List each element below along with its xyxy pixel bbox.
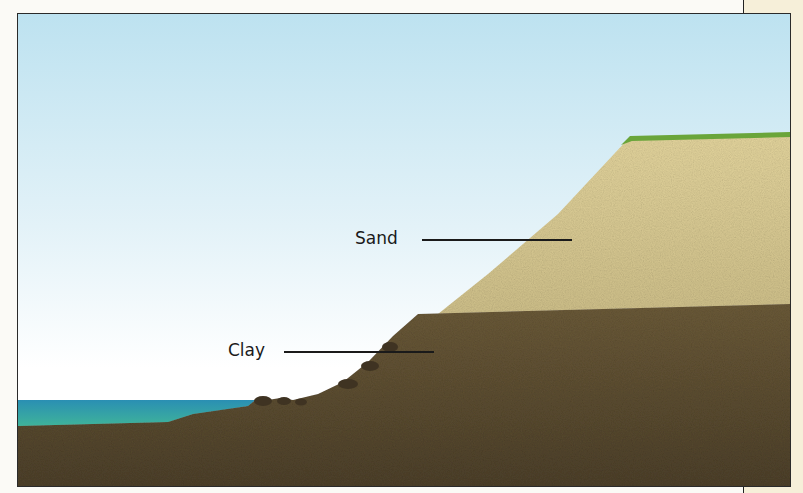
margin-rule-bottom: [743, 486, 744, 493]
cross-section-illustration: [18, 14, 790, 486]
leader-line-clay: [284, 351, 434, 353]
label-sand: Sand: [355, 230, 398, 247]
margin-rule-top: [743, 0, 744, 14]
cliff-diagram: Sand Clay: [17, 13, 791, 487]
label-clay: Clay: [228, 342, 265, 359]
leader-line-sand: [422, 239, 572, 241]
